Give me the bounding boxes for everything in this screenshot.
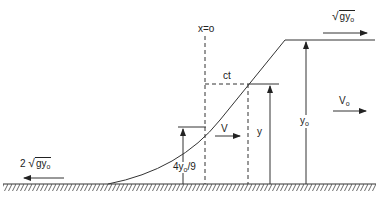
- four-yo-9-label: 4yo/9: [173, 162, 196, 173]
- sqrt-icon: √: [28, 156, 35, 170]
- subscript: o: [346, 100, 350, 107]
- subscript: o: [47, 163, 51, 170]
- over-nine: /9: [187, 161, 195, 172]
- coefficient: 2: [20, 158, 26, 169]
- top-velocity-label: √gyo: [332, 10, 355, 25]
- diagram-canvas: [0, 0, 385, 204]
- subscript: o: [305, 120, 309, 127]
- ct-label: ct: [223, 71, 231, 81]
- water-surface-curve: [108, 40, 375, 184]
- sqrt-icon: √: [332, 9, 339, 23]
- radicand: gy: [36, 158, 47, 169]
- ground: [3, 184, 376, 191]
- subscript: o: [350, 16, 354, 23]
- Vo-label: Vo: [339, 96, 350, 107]
- origin-label: x=o: [198, 24, 214, 34]
- left-velocity-label: 2 √gyo: [20, 157, 51, 172]
- V-main: V: [339, 95, 346, 106]
- four-y: 4y: [173, 161, 184, 172]
- V-label: V: [221, 124, 228, 134]
- radicand: gy: [340, 11, 351, 22]
- yo-label: yo: [300, 115, 309, 128]
- y-label: y: [257, 127, 262, 137]
